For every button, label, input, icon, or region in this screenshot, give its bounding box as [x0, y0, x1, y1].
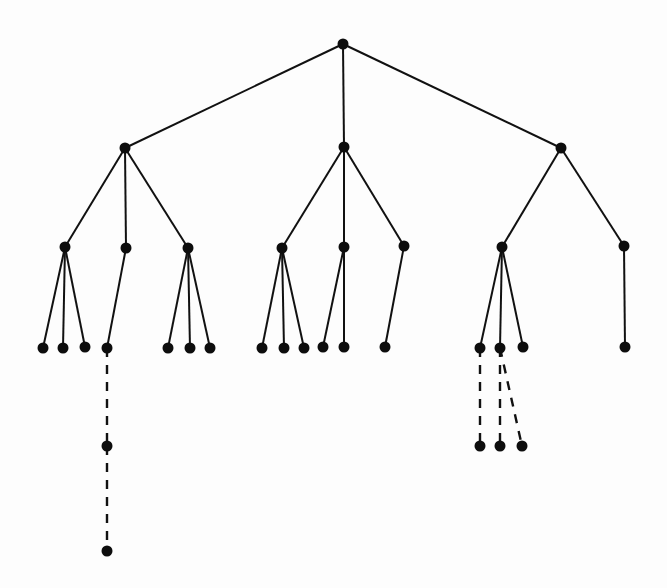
- edge-b1-b1a: [262, 248, 282, 348]
- edge-c-c2: [561, 148, 624, 246]
- tree-node-c1b2: [517, 441, 528, 452]
- edge-a3-a3a: [168, 248, 188, 348]
- tree-node-a1c: [80, 342, 91, 353]
- tree-node-r: [338, 39, 349, 50]
- tree-node-a2a: [102, 343, 113, 354]
- tree-node-a2a1: [102, 441, 113, 452]
- tree-node-b2b: [339, 342, 350, 353]
- tree-diagram: [0, 0, 667, 588]
- edge-a1-a1c: [65, 247, 85, 347]
- dashed-edge-c1b-c1b2: [500, 348, 522, 446]
- tree-node-a3b: [185, 343, 196, 354]
- tree-node-a1a: [38, 343, 49, 354]
- tree-node-b: [339, 142, 350, 153]
- tree-node-a3: [183, 243, 194, 254]
- edge-b2-b2a: [323, 247, 344, 347]
- edge-c1-c1c: [502, 247, 523, 347]
- edge-a3-a3b: [188, 248, 190, 348]
- tree-node-a2: [121, 243, 132, 254]
- edge-r-b: [343, 44, 344, 147]
- edge-b-b3: [344, 147, 404, 246]
- edge-a1-a1b: [63, 247, 65, 348]
- tree-node-b2: [339, 242, 350, 253]
- edge-a3-a3c: [188, 248, 210, 348]
- edge-b3-b3a: [385, 246, 404, 347]
- tree-node-c2: [619, 241, 630, 252]
- tree-edges: [43, 44, 625, 551]
- tree-node-c1a1: [475, 441, 486, 452]
- edge-b1-b1c: [282, 248, 304, 348]
- tree-node-b1c: [299, 343, 310, 354]
- tree-node-a: [120, 143, 131, 154]
- tree-node-b2a: [318, 342, 329, 353]
- edge-r-c: [343, 44, 561, 148]
- edge-b1-b1b: [282, 248, 284, 348]
- tree-node-a3a: [163, 343, 174, 354]
- tree-node-b3a: [380, 342, 391, 353]
- edge-a-a2: [125, 148, 126, 248]
- tree-node-a1b: [58, 343, 69, 354]
- edge-b-b1: [282, 147, 344, 248]
- tree-node-c1a: [475, 343, 486, 354]
- edge-c1-c1b: [500, 247, 502, 348]
- tree-node-a2a2: [102, 546, 113, 557]
- tree-node-c1b1: [495, 441, 506, 452]
- edge-a2-a2a: [107, 248, 126, 348]
- tree-node-c2a: [620, 342, 631, 353]
- tree-node-b1b: [279, 343, 290, 354]
- edge-c1-c1a: [480, 247, 502, 348]
- edge-r-a: [125, 44, 343, 148]
- edge-a-a1: [65, 148, 125, 247]
- tree-node-a3c: [205, 343, 216, 354]
- tree-node-b1a: [257, 343, 268, 354]
- tree-node-c1: [497, 242, 508, 253]
- tree-node-c: [556, 143, 567, 154]
- tree-node-a1: [60, 242, 71, 253]
- tree-node-c1c: [518, 342, 529, 353]
- tree-diagram-svg: [0, 0, 667, 588]
- edge-a-a3: [125, 148, 188, 248]
- tree-node-c1b: [495, 343, 506, 354]
- tree-node-b1: [277, 243, 288, 254]
- edge-c-c1: [502, 148, 561, 247]
- edge-a1-a1a: [43, 247, 65, 348]
- tree-node-b3: [399, 241, 410, 252]
- edge-c2-c2a: [624, 246, 625, 347]
